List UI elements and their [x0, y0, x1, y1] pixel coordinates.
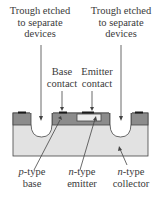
- label-p-base: p-type base: [10, 166, 54, 189]
- label-suffix: -type: [123, 166, 145, 177]
- trough-left: [31, 112, 52, 137]
- label-base-contact: Base contact: [43, 66, 81, 89]
- arrow-trough-right: [119, 45, 123, 121]
- label-n-collector: n-type collector: [106, 166, 156, 189]
- label-suffix: -type: [24, 166, 46, 177]
- arrow-emitter-contact: [90, 91, 94, 111]
- label-line: devices: [82, 28, 160, 40]
- n-emitter-region: [77, 114, 101, 121]
- label-suffix: -type: [74, 166, 96, 177]
- contact-right: [135, 112, 143, 114]
- trough-right: [110, 112, 131, 137]
- label-line: Trough etched: [2, 5, 78, 17]
- contact-left: [18, 112, 26, 114]
- label-line: base: [10, 178, 54, 190]
- label-trough-right: Trough etched to separate devices: [82, 5, 160, 40]
- p-layer-left: [13, 113, 32, 125]
- label-line: contact: [43, 78, 81, 90]
- label-line: Base: [43, 66, 81, 78]
- label-n-emitter: n-type emitter: [60, 166, 104, 189]
- label-line: Trough etched: [82, 5, 160, 17]
- label-line: Emitter: [78, 66, 116, 78]
- base-contact: [59, 112, 67, 114]
- label-line: emitter: [60, 178, 104, 190]
- label-line: collector: [106, 178, 156, 190]
- arrow-base-contact: [60, 91, 64, 111]
- label-trough-left: Trough etched to separate devices: [2, 5, 78, 40]
- label-emitter-contact: Emitter contact: [78, 66, 116, 89]
- label-line: contact: [78, 78, 116, 90]
- label-line: devices: [2, 28, 78, 40]
- emitter-contact: [82, 112, 94, 114]
- label-line: to separate: [82, 17, 160, 29]
- p-layer-right: [131, 113, 148, 125]
- label-line: to separate: [2, 17, 78, 29]
